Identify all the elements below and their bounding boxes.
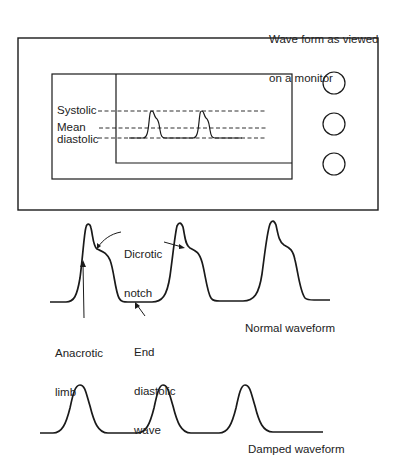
damped-waveform-caption: Damped waveform [248,443,345,456]
anacrotic-limb-label: Anacrotic limb [55,321,103,412]
dicrotic-notch-label: Dicrotic notch [124,222,162,313]
dicrotic-label-line2: notch [124,287,162,300]
systolic-label: Systolic [57,104,97,117]
monitor-button-3[interactable] [323,153,345,175]
monitor-waveform [129,111,242,138]
monitor-display-area [116,74,292,163]
monitor-button-2[interactable] [323,113,345,135]
dicrotic-label-line1: Dicrotic [124,248,162,261]
anacrotic-label-line2: limb [55,386,103,399]
monitor-title-line1: Wave form as viewed [269,33,379,46]
dicrotic-arrowhead-right [179,244,185,249]
monitor-title-line2: on a monitor [269,72,379,85]
normal-waveform [50,221,330,302]
end-label-line3: wave [134,424,176,437]
monitor-title: Wave form as viewed on a monitor [269,7,379,98]
end-label-line1: End [134,346,176,359]
anacrotic-label-line1: Anacrotic [55,347,103,360]
dicrotic-arrow-left [98,232,121,247]
anacrotic-arrow [83,264,84,318]
end-diastolic-wave-label: End diastolic wave [134,320,176,450]
end-label-line2: diastolic [134,385,176,398]
normal-waveform-caption: Normal waveform [245,322,335,335]
diastolic-label: diastolic [57,133,99,146]
